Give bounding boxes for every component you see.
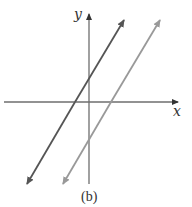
line-2-light-lower	[63, 102, 111, 184]
plot-canvas	[0, 0, 192, 207]
y-axis-label: y	[74, 7, 82, 21]
line-1-dark-lower	[27, 102, 75, 184]
figure-caption: (b)	[81, 190, 97, 204]
coordinate-plot: y x (b)	[0, 0, 192, 207]
line-1-dark	[75, 20, 124, 102]
line-2-light	[111, 20, 160, 102]
x-axis-label: x	[173, 104, 181, 118]
